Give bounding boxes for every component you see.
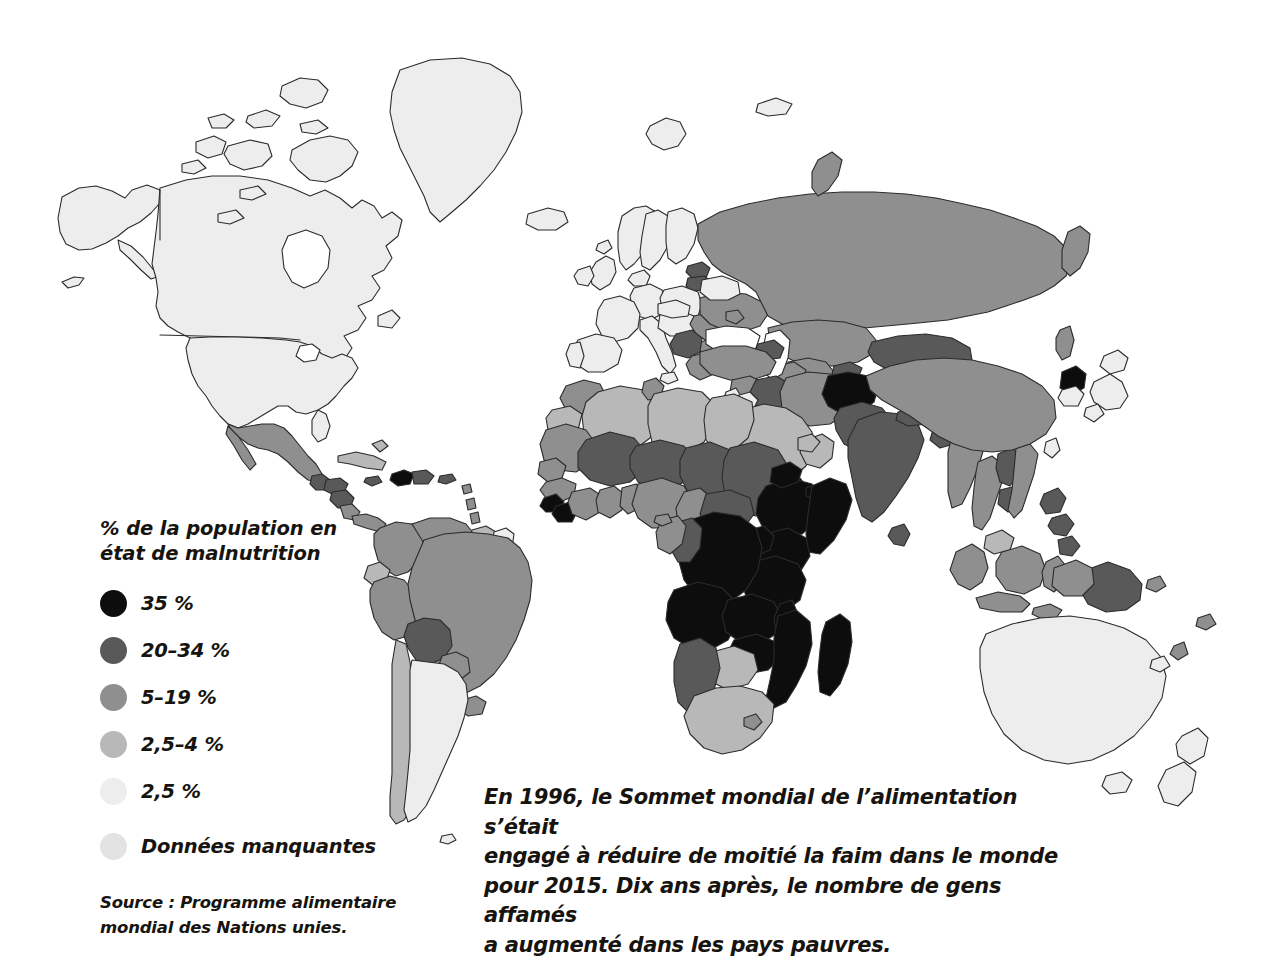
legend-swatch-2-5-4 xyxy=(100,731,127,758)
region-somalia xyxy=(806,478,852,554)
region-estonia xyxy=(686,262,710,278)
region-falklands xyxy=(440,834,456,844)
source-note: Source : Programme alimentaire mondial d… xyxy=(100,890,430,940)
region-belarus xyxy=(700,276,740,300)
region-lesser-sunda xyxy=(1032,604,1062,618)
legend-swatch-missing xyxy=(100,833,127,860)
region-banks-island xyxy=(196,136,226,158)
region-madagascar xyxy=(818,614,852,696)
region-bahamas xyxy=(372,440,388,452)
region-sakhalin xyxy=(1056,326,1074,360)
region-sumatra xyxy=(950,544,988,590)
region-lesser-antilles-1 xyxy=(462,484,472,494)
region-philippines-2 xyxy=(1048,514,1074,536)
region-united-kingdom xyxy=(590,256,616,290)
region-iceland xyxy=(526,208,568,230)
region-sri-lanka xyxy=(888,524,910,546)
region-philippines-3 xyxy=(1058,536,1080,556)
legend-row-2-5-4: 2,5–4 % xyxy=(100,721,400,768)
legend-label-20-34: 20–34 % xyxy=(141,639,230,662)
region-portugal xyxy=(566,342,584,368)
map-caption: En 1996, le Sommet mondial de l’alimenta… xyxy=(484,783,1064,960)
region-baffin-island xyxy=(290,136,358,182)
region-cuba xyxy=(338,452,386,470)
region-japan-hokkaido xyxy=(1100,350,1128,374)
region-aleutians xyxy=(62,277,84,288)
region-puerto-rico xyxy=(438,474,456,484)
region-finland xyxy=(666,208,698,264)
region-taiwan xyxy=(1044,438,1060,458)
region-new-zealand-south xyxy=(1158,762,1196,806)
region-arctic-islet-4 xyxy=(182,160,206,174)
legend-row-2-5: 2,5 % xyxy=(100,768,400,815)
region-fiji xyxy=(1196,614,1216,630)
region-australia xyxy=(980,616,1166,764)
legend-label-5-19: 5–19 % xyxy=(141,686,217,709)
legend-row-missing: Données manquantes xyxy=(100,823,400,870)
region-tasmania xyxy=(1102,772,1132,794)
region-sicily xyxy=(660,372,678,384)
great-lakes xyxy=(296,344,320,362)
legend-swatch-5-19 xyxy=(100,684,127,711)
region-arctic-islet-2 xyxy=(208,114,234,128)
legend-title: % de la population en état de malnutriti… xyxy=(100,516,400,566)
region-turkey xyxy=(700,346,776,380)
region-ellesmere xyxy=(280,78,328,108)
map-legend: % de la population en état de malnutriti… xyxy=(100,516,400,870)
region-kamchatka xyxy=(1062,226,1090,276)
region-solomon-islands xyxy=(1146,576,1166,592)
region-ghana xyxy=(596,486,624,518)
legend-label-2-5: 2,5 % xyxy=(141,780,201,803)
legend-swatch-2-5 xyxy=(100,778,127,805)
region-java xyxy=(976,592,1030,612)
region-vanuatu xyxy=(1170,642,1188,660)
legend-label-missing: Données manquantes xyxy=(141,835,376,858)
legend-row-20-34: 20–34 % xyxy=(100,627,400,674)
world-malnutrition-map-figure: % de la population en état de malnutriti… xyxy=(0,0,1278,975)
region-arctic-islet-3 xyxy=(300,120,328,134)
region-dominican-republic xyxy=(412,470,434,484)
legend-row-5-19: 5–19 % xyxy=(100,674,400,721)
region-argentina xyxy=(404,660,468,822)
region-lesser-antilles-2 xyxy=(466,498,476,510)
region-novaya-zemlya xyxy=(812,152,842,196)
legend-label-35: 35 % xyxy=(141,592,194,615)
region-arctic-islet-1 xyxy=(246,110,280,128)
region-philippines-1 xyxy=(1040,488,1066,514)
legend-swatch-35 xyxy=(100,590,127,617)
legend-swatch-20-34 xyxy=(100,637,127,664)
legend-row-35: 35 % xyxy=(100,580,400,627)
region-borneo xyxy=(996,546,1046,594)
region-haiti xyxy=(390,470,414,486)
legend-label-2-5-4: 2,5–4 % xyxy=(141,733,224,756)
region-denmark xyxy=(628,270,650,286)
region-lesser-antilles-3 xyxy=(470,512,480,524)
region-greenland xyxy=(390,58,522,222)
region-ireland xyxy=(574,266,594,286)
region-scotland-isles xyxy=(596,240,612,254)
region-india xyxy=(848,412,924,522)
region-victoria-island xyxy=(224,140,272,170)
region-arctic-isles-ru xyxy=(756,98,792,116)
region-new-zealand-north xyxy=(1176,728,1208,764)
region-newfoundland xyxy=(378,310,400,328)
region-florida xyxy=(312,410,330,442)
region-alaska xyxy=(58,185,160,250)
region-svalbard xyxy=(646,118,686,150)
region-jamaica xyxy=(364,476,382,486)
